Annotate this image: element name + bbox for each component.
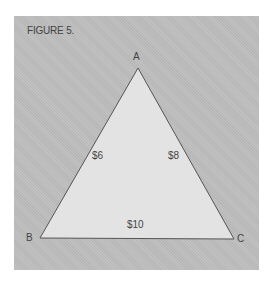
edge-label-bc: $10	[127, 219, 144, 230]
triangle-shape	[40, 68, 234, 239]
triangle-diagram	[0, 0, 275, 288]
edge-label-ac: $8	[168, 150, 179, 161]
vertex-label-b: B	[26, 232, 33, 243]
vertex-label-a: A	[133, 51, 140, 62]
edge-label-ab: $6	[92, 150, 103, 161]
vertex-label-c: C	[237, 233, 244, 244]
